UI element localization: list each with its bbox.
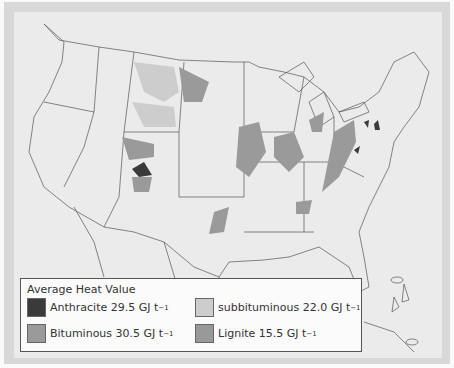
legend-item-bituminous: Bituminous 30.5 GJ t−1 xyxy=(27,324,173,343)
bituminous-swatch xyxy=(27,324,46,343)
legend-title: Average Heat Value xyxy=(27,283,135,296)
legend-item-lignite: Lignite 15.5 GJ t−1 xyxy=(195,324,317,343)
exponent: −1 xyxy=(306,330,316,338)
exponent: −1 xyxy=(350,304,360,312)
us-coal-map: Average Heat Value Anthracite 29.5 GJ t−… xyxy=(14,12,442,358)
exponent: −1 xyxy=(163,330,173,338)
bituminous-label: Bituminous 30.5 GJ t xyxy=(50,327,163,340)
legend-item-anthracite: Anthracite 29.5 GJ t−1 xyxy=(27,298,169,317)
map-frame: Average Heat Value Anthracite 29.5 GJ t−… xyxy=(4,2,450,364)
anthracite-swatch xyxy=(27,298,46,317)
anthracite-label: Anthracite 29.5 GJ t xyxy=(50,301,158,314)
exponent: −1 xyxy=(158,304,168,312)
lignite-swatch xyxy=(195,324,214,343)
subbituminous-swatch xyxy=(195,298,214,317)
lignite-label: Lignite 15.5 GJ t xyxy=(218,327,306,340)
legend-box: Average Heat Value Anthracite 29.5 GJ t−… xyxy=(20,278,362,352)
subbituminous-label: subbituminous 22.0 GJ t xyxy=(218,301,350,314)
legend-item-subbituminous: subbituminous 22.0 GJ t−1 xyxy=(195,298,361,317)
